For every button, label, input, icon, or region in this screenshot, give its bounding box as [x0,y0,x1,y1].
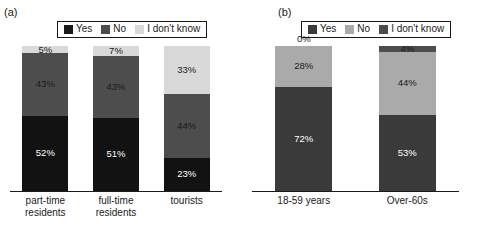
bar-segment-label-no: 44% [398,78,417,88]
bar-segment-label-idontknow: 33% [177,65,196,75]
category-label-line2: residents [12,207,78,219]
bar-segment-label-idontknow: 7% [109,46,123,56]
bar-segment-yes: 53% [379,115,436,191]
bar-segment-idontknow: 7% [93,46,139,56]
bar-segment-idontknow: 33% [164,46,210,94]
legend-swatch-idontknow-icon [135,25,144,34]
category-label-line1: tourists [154,195,220,207]
bar-stack: 4% 44% 53% [379,46,436,191]
legend-label-idontknow: I don't know [147,24,200,34]
bar-column-18-59-years: 0% 28% 72% [275,46,332,191]
bar-stack: 7% 43% 51% [93,46,139,191]
bar-column-over-60s: 4% 44% 53% [379,46,436,191]
legend-entry-no: No [345,24,370,34]
panel-a: (a) Yes No I don't know 5% [0,0,240,236]
category-label-line1: part-time [12,195,78,207]
bar-segment-no: 43% [22,53,68,115]
legend-swatch-no-icon [345,25,354,34]
bar-segment-no: 44% [164,94,210,158]
bar-segment-yes: 23% [164,158,210,191]
category-label-line2: residents [83,207,149,219]
bar-segment-label-idontknow: 0% [275,34,332,44]
category-label-part-time-residents: part-time residents [12,195,78,218]
bar-segment-no: 44% [379,52,436,115]
bar-segment-label-no: 43% [36,79,55,89]
bar-stack: 5% 43% 52% [22,46,68,191]
category-label-full-time-residents: full-time residents [83,195,149,218]
panel-b-plot: 0% 28% 72% 4% [240,46,479,192]
legend-entry-idontknow: I don't know [135,24,200,34]
bar-column-tourists: 33% 44% 23% [164,46,210,191]
category-label-tourists: tourists [154,195,220,218]
legend-swatch-yes-icon [64,25,73,34]
legend-entry-yes: Yes [308,24,336,34]
legend-label-no: No [113,24,126,34]
legend-entry-no: No [101,24,126,34]
bar-segment-no: 43% [93,56,139,118]
bar-segment-label-yes: 23% [177,169,196,179]
bar-segment-no: 28% [275,46,332,87]
stacked-bar-figure: (a) Yes No I don't know 5% [0,0,479,236]
panel-a-caption-cut [0,229,240,236]
legend-label-yes: Yes [76,24,92,34]
bar-segment-yes: 51% [93,118,139,191]
bar-segment-label-no: 43% [106,82,125,92]
bar-segment-idontknow: 5% [22,46,68,53]
category-label-line1: Over-60s [372,195,442,207]
panel-a-axis-line [10,191,222,192]
category-label-18-59-years: 18-59 years [269,195,339,207]
legend-label-no: No [357,24,370,34]
panel-b-axis-line [252,191,459,192]
legend-swatch-idontknow-icon [379,25,388,34]
bar-stack: 0% 28% 72% [275,46,332,191]
panel-b-caption-cut [240,229,479,236]
bar-segment-yes: 72% [275,87,332,191]
bar-column-part-time-residents: 5% 43% 52% [22,46,68,191]
panel-b-bars: 0% 28% 72% 4% [252,46,459,191]
bar-segment-label-yes: 53% [398,148,417,158]
bar-column-full-time-residents: 7% 43% 51% [93,46,139,191]
panel-b: (b) Yes No I don't know 0% [240,0,479,236]
legend-label-yes: Yes [320,24,336,34]
panel-a-legend: Yes No I don't know [57,21,207,38]
panel-b-label: (b) [278,6,291,18]
panel-a-plot: 5% 43% 52% 7% [0,46,240,192]
panel-a-label: (a) [4,6,17,18]
legend-entry-yes: Yes [64,24,92,34]
panel-b-category-labels: 18-59 years Over-60s [252,195,459,207]
legend-entry-idontknow: I don't know [379,24,444,34]
bar-segment-label-yes: 51% [106,149,125,159]
bar-segment-label-yes: 52% [36,148,55,158]
bar-segment-label-no: 44% [177,121,196,131]
legend-label-idontknow: I don't know [391,24,444,34]
bar-segment-label-no: 28% [294,61,313,71]
bar-stack: 33% 44% 23% [164,46,210,191]
category-label-line1: 18-59 years [269,195,339,207]
bar-segment-yes: 52% [22,116,68,191]
panel-a-bars: 5% 43% 52% 7% [10,46,222,191]
legend-swatch-no-icon [101,25,110,34]
category-label-line1: full-time [83,195,149,207]
panel-a-category-labels: part-time residents full-time residents … [10,195,222,218]
category-label-over-60s: Over-60s [372,195,442,207]
bar-segment-label-yes: 72% [294,134,313,144]
